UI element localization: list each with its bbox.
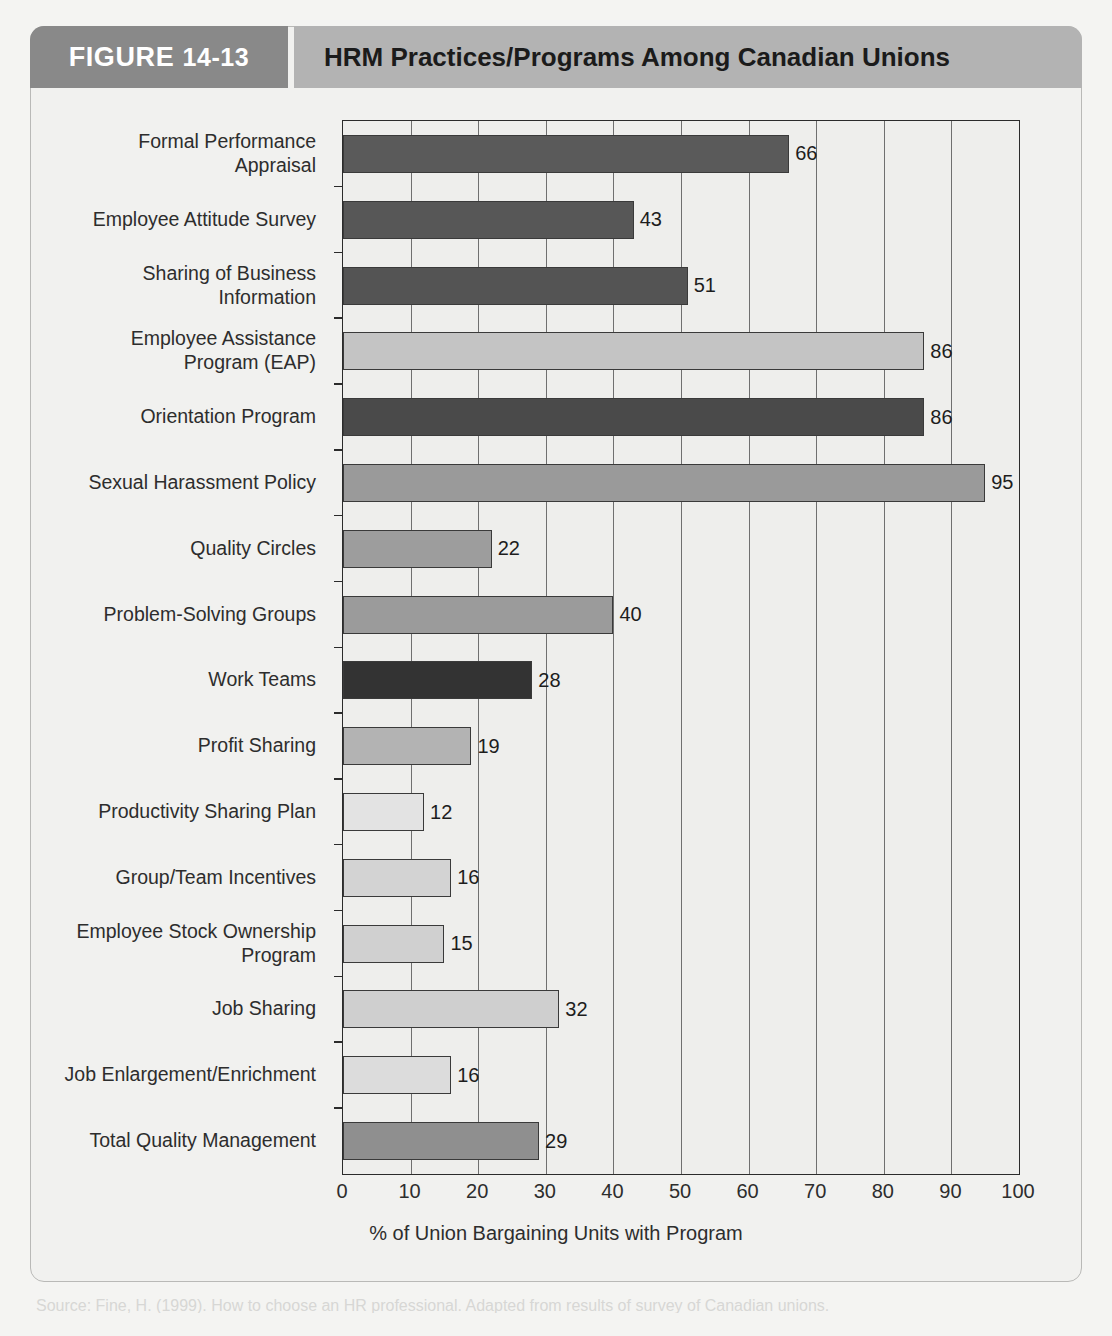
category-label-line: Employee Attitude Survey bbox=[26, 207, 316, 231]
figure-header: FIGURE 14-13 HRM Practices/Programs Amon… bbox=[30, 26, 1082, 88]
category-label: Profit Sharing bbox=[26, 733, 316, 757]
bar-value-label: 12 bbox=[430, 801, 452, 824]
figure-number: 14-13 bbox=[182, 43, 249, 71]
axis-tick bbox=[334, 186, 342, 188]
bar bbox=[343, 793, 424, 831]
bar-value-label: 32 bbox=[565, 998, 587, 1021]
axis-tick bbox=[334, 647, 342, 649]
bar-row: 16 bbox=[343, 1056, 1019, 1094]
axis-tick bbox=[334, 317, 342, 319]
x-tick-label: 50 bbox=[669, 1180, 691, 1203]
chart-container: Formal PerformanceAppraisalEmployee Atti… bbox=[30, 88, 1082, 1282]
plot-area: 66435186869522402819121615321629 bbox=[342, 120, 1020, 1175]
axis-tick bbox=[334, 844, 342, 846]
category-label: Job Sharing bbox=[26, 996, 316, 1020]
figure-screenshot: FIGURE 14-13 HRM Practices/Programs Amon… bbox=[0, 0, 1112, 1336]
category-label: Employee Attitude Survey bbox=[26, 207, 316, 231]
page-title: HRM Practices/Programs Among Canadian Un… bbox=[294, 42, 950, 73]
bar bbox=[343, 925, 444, 963]
category-label-line: Program (EAP) bbox=[26, 350, 316, 374]
bar bbox=[343, 727, 471, 765]
bar-row: 43 bbox=[343, 201, 1019, 239]
bar-value-label: 95 bbox=[991, 471, 1013, 494]
x-tick-label: 100 bbox=[1001, 1180, 1034, 1203]
bar-row: 86 bbox=[343, 398, 1019, 436]
bar-row: 32 bbox=[343, 990, 1019, 1028]
bar bbox=[343, 332, 924, 370]
bar-value-label: 19 bbox=[477, 735, 499, 758]
x-axis-title: % of Union Bargaining Units with Program bbox=[30, 1222, 1082, 1245]
category-label-line: Information bbox=[26, 285, 316, 309]
category-axis-labels: Formal PerformanceAppraisalEmployee Atti… bbox=[30, 120, 330, 1175]
category-label: Work Teams bbox=[26, 667, 316, 691]
bar-value-label: 40 bbox=[619, 603, 641, 626]
bar-row: 95 bbox=[343, 464, 1019, 502]
bar bbox=[343, 267, 688, 305]
bar-value-label: 29 bbox=[545, 1130, 567, 1153]
bar bbox=[343, 990, 559, 1028]
category-label: Sexual Harassment Policy bbox=[26, 470, 316, 494]
category-label: Employee Stock OwnershipProgram bbox=[26, 919, 316, 967]
category-label-line: Sharing of Business bbox=[26, 261, 316, 285]
category-label: Productivity Sharing Plan bbox=[26, 799, 316, 823]
bar-value-label: 22 bbox=[498, 537, 520, 560]
axis-tick bbox=[334, 383, 342, 385]
category-label-line: Job Sharing bbox=[26, 996, 316, 1020]
figure-word: FIGURE bbox=[69, 42, 175, 72]
bar bbox=[343, 596, 613, 634]
category-label-line: Appraisal bbox=[26, 153, 316, 177]
bar-rows: 66435186869522402819121615321629 bbox=[343, 121, 1019, 1174]
axis-tick bbox=[334, 976, 342, 978]
category-label: Sharing of BusinessInformation bbox=[26, 261, 316, 309]
bar bbox=[343, 859, 451, 897]
x-tick-label: 80 bbox=[872, 1180, 894, 1203]
bar-value-label: 51 bbox=[694, 274, 716, 297]
category-label-line: Employee Stock Ownership bbox=[26, 919, 316, 943]
category-label: Problem-Solving Groups bbox=[26, 602, 316, 626]
axis-tick bbox=[334, 910, 342, 912]
bar bbox=[343, 398, 924, 436]
category-label: Formal PerformanceAppraisal bbox=[26, 129, 316, 177]
category-label: Group/Team Incentives bbox=[26, 865, 316, 889]
bar-value-label: 86 bbox=[930, 406, 952, 429]
bar-row: 29 bbox=[343, 1122, 1019, 1160]
category-label-line: Problem-Solving Groups bbox=[26, 602, 316, 626]
bar-value-label: 86 bbox=[930, 340, 952, 363]
bar bbox=[343, 661, 532, 699]
x-tick-label: 10 bbox=[398, 1180, 420, 1203]
bar-row: 66 bbox=[343, 135, 1019, 173]
category-label-line: Sexual Harassment Policy bbox=[26, 470, 316, 494]
axis-tick bbox=[334, 515, 342, 517]
category-label-line: Employee Assistance bbox=[26, 326, 316, 350]
axis-tick bbox=[334, 252, 342, 254]
bar-value-label: 66 bbox=[795, 142, 817, 165]
category-label: Total Quality Management bbox=[26, 1128, 316, 1152]
category-label-line: Group/Team Incentives bbox=[26, 865, 316, 889]
figure-number-tab: FIGURE 14-13 bbox=[30, 26, 288, 88]
x-tick-label: 70 bbox=[804, 1180, 826, 1203]
bar-value-label: 16 bbox=[457, 866, 479, 889]
bar bbox=[343, 464, 985, 502]
category-label-line: Profit Sharing bbox=[26, 733, 316, 757]
bar bbox=[343, 1056, 451, 1094]
bar-value-label: 28 bbox=[538, 669, 560, 692]
bar-value-label: 43 bbox=[640, 208, 662, 231]
axis-tick bbox=[334, 1041, 342, 1043]
bar-row: 12 bbox=[343, 793, 1019, 831]
category-label-line: Program bbox=[26, 943, 316, 967]
bar bbox=[343, 1122, 539, 1160]
x-tick-label: 60 bbox=[736, 1180, 758, 1203]
category-label-line: Formal Performance bbox=[26, 129, 316, 153]
bar-row: 15 bbox=[343, 925, 1019, 963]
axis-tick bbox=[334, 581, 342, 583]
category-label: Job Enlargement/Enrichment bbox=[26, 1062, 316, 1086]
category-label-line: Orientation Program bbox=[26, 404, 316, 428]
category-label-line: Quality Circles bbox=[26, 536, 316, 560]
axis-tick bbox=[334, 1107, 342, 1109]
category-label: Employee AssistanceProgram (EAP) bbox=[26, 326, 316, 374]
bar-row: 51 bbox=[343, 267, 1019, 305]
axis-tick bbox=[334, 449, 342, 451]
bar-row: 19 bbox=[343, 727, 1019, 765]
bar bbox=[343, 530, 492, 568]
category-label: Quality Circles bbox=[26, 536, 316, 560]
